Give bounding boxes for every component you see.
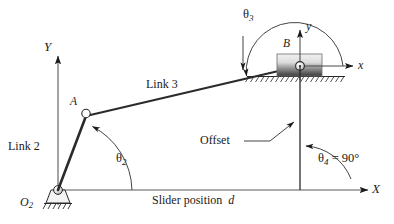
offset-leader-line: [244, 122, 294, 141]
joint-b-label: B: [283, 38, 290, 50]
slider-position-label: Slider position d: [152, 194, 234, 206]
theta4-value: = 90°: [329, 151, 360, 165]
theta2-label: θ2: [116, 152, 127, 167]
ground-hatch-o2: [43, 204, 71, 210]
offset-leader: [244, 122, 294, 141]
link2-label: Link 2: [8, 140, 40, 152]
link3-label: Link 3: [146, 78, 178, 90]
joint-a-circle: [82, 109, 90, 117]
origin-label: O2: [20, 196, 33, 210]
local-y-axis-label: y: [306, 20, 311, 32]
slider-position-text: Slider position: [152, 193, 222, 207]
link3-line: [86, 66, 300, 116]
theta4-label: θ4 = 90°: [318, 152, 359, 167]
local-x-axis-label: x: [358, 59, 363, 71]
slide-surface-hatch: [246, 77, 345, 83]
mechanism-diagram: Y X y x O2 A B Link 2 Link 3 θ2 θ3 θ4 = …: [0, 0, 394, 224]
theta2-subscript: 2: [122, 157, 127, 167]
theta3-subscript: 3: [249, 13, 254, 23]
slider-position-variable: d: [228, 193, 234, 207]
theta3-label: θ3: [243, 8, 254, 23]
global-y-axis-label: Y: [44, 40, 51, 53]
global-axes: [58, 56, 368, 205]
global-x-axis-label: X: [372, 182, 380, 195]
diagram-canvas: [0, 0, 394, 224]
joint-a-label: A: [70, 96, 77, 108]
slider-ground-surface: [246, 77, 346, 83]
offset-label: Offset: [200, 134, 230, 146]
origin-subscript: 2: [29, 200, 33, 210]
joint-a: [82, 109, 90, 117]
origin-letter: O: [20, 195, 29, 209]
link2-line: [58, 116, 86, 190]
